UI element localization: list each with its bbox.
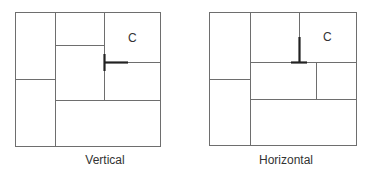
diagram-canvas <box>0 0 371 176</box>
horizontal-t-marker <box>291 37 307 63</box>
cell-label-c-horizontal: C <box>323 30 332 44</box>
caption-horizontal: Horizontal <box>226 153 346 167</box>
vertical-layout-diagram <box>16 13 161 147</box>
horizontal-layout-diagram <box>210 13 357 146</box>
vertical-t-marker <box>105 54 129 71</box>
caption-vertical: Vertical <box>45 153 165 167</box>
cell-label-c-vertical: C <box>128 31 137 45</box>
